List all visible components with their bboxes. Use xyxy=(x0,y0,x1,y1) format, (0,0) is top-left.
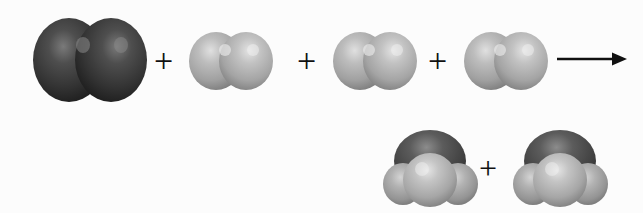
molecule-nitrogen-n2 xyxy=(33,17,147,103)
molecule-hydrogen-h2-3 xyxy=(464,31,548,91)
reaction-arrow-icon xyxy=(556,46,628,72)
reaction-diagram: + + xyxy=(0,0,643,213)
molecule-hydrogen-h2-2 xyxy=(333,31,417,91)
molecule-ammonia-nh3-1 xyxy=(382,127,478,209)
plus-sign-4: + xyxy=(479,152,497,184)
atom-hydrogen-right xyxy=(363,32,417,90)
plus-sign-2: + xyxy=(297,44,316,78)
plus-sign-3: + xyxy=(428,44,447,78)
molecule-ammonia-nh3-2 xyxy=(512,127,608,209)
plus-sign-1: + xyxy=(154,44,173,78)
atom-hydrogen-front xyxy=(533,153,587,207)
atom-hydrogen-right xyxy=(494,32,548,90)
atom-hydrogen-front xyxy=(403,153,457,207)
molecule-hydrogen-h2-1 xyxy=(189,31,273,91)
atom-hydrogen-right xyxy=(219,32,273,90)
atom-nitrogen-right xyxy=(75,18,147,102)
